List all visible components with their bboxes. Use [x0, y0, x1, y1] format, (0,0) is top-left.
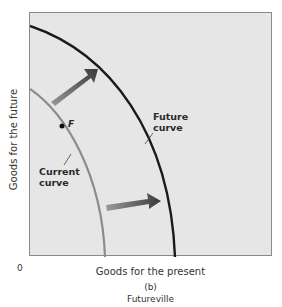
shift-arrow-right	[106, 193, 161, 211]
current-curve-label: Current curve	[39, 166, 80, 188]
chart-title: Futureville	[29, 294, 272, 304]
origin-label: 0	[17, 263, 23, 273]
future-curve-label: Future curve	[153, 111, 188, 133]
curves-svg	[30, 13, 273, 257]
plot-area: F Current curve Future curve	[29, 12, 272, 256]
point-f	[60, 124, 65, 129]
x-axis-label: Goods for the present	[29, 266, 272, 277]
y-axis-label: Goods for the future	[8, 65, 19, 215]
panel-label: (b)	[29, 282, 272, 292]
point-f-label: F	[68, 119, 74, 129]
shift-arrow-up-right	[51, 69, 98, 106]
